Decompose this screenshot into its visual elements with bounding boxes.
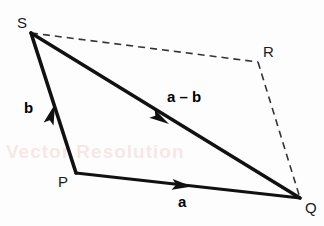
vertex-label-s: S: [17, 15, 27, 30]
segment-sq-vector-a-minus-b: [31, 33, 300, 198]
vertex-label-r: R: [263, 44, 274, 59]
vector-diagram-figure: Vector Resolution S P Q R b a – b a: [0, 0, 324, 226]
vector-label-b: b: [24, 100, 33, 115]
segment-sr-dashed: [31, 33, 258, 62]
vertex-label-q: Q: [305, 200, 317, 215]
vertex-label-p: P: [58, 174, 68, 189]
vector-label-a: a: [178, 194, 186, 209]
segment-ps-vector-b: [31, 33, 76, 173]
vector-label-a-minus-b: a – b: [167, 89, 201, 104]
diagram-canvas: [0, 0, 324, 226]
